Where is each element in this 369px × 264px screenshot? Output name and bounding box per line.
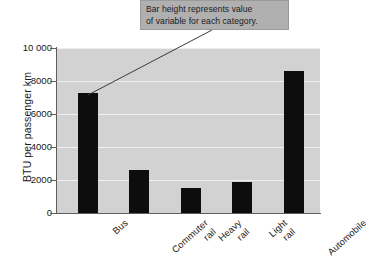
y-tickmark-6000 xyxy=(50,114,56,115)
y-tickmark-10000 xyxy=(50,48,56,49)
y-tickmark-4000 xyxy=(50,147,56,148)
bar-bus xyxy=(78,93,98,213)
x-label-heavy-rail: Heavy rail xyxy=(216,217,252,252)
bar-series xyxy=(57,48,320,213)
x-label-automobile-line1: Automobile xyxy=(325,217,368,257)
callout-text-line1: Bar height represents value xyxy=(146,3,284,15)
bar-heavy-rail xyxy=(181,188,201,213)
x-axis-category-labels: Bus Commuter rail Heavy rail Light rail … xyxy=(57,213,320,264)
y-tick-label-4000: 4000 xyxy=(4,142,52,152)
y-tick-label-6000: 6000 xyxy=(4,109,52,119)
y-axis-line xyxy=(56,47,57,214)
y-tickmark-2000 xyxy=(50,180,56,181)
callout-text-line2: of variable for each category. xyxy=(146,15,284,27)
y-tick-label-10000: 10 000 xyxy=(4,43,52,53)
bar-automobile xyxy=(284,71,304,213)
x-label-bus: Bus xyxy=(110,217,130,237)
y-axis-tick-labels: 10 000 8000 6000 4000 2000 0 xyxy=(0,0,52,264)
plot-area xyxy=(57,48,320,213)
y-tick-label-0: 0 xyxy=(4,208,52,218)
x-label-bus-line1: Bus xyxy=(110,217,130,236)
bar-light-rail xyxy=(232,182,252,213)
x-label-commuter-rail: Commuter rail xyxy=(169,217,218,264)
x-label-automobile: Automobile xyxy=(325,217,368,258)
x-label-light-rail: Light rail xyxy=(266,217,297,248)
bar-height-callout: Bar height represents value of variable … xyxy=(140,0,289,30)
y-tick-label-8000: 8000 xyxy=(4,76,52,86)
y-tickmark-8000 xyxy=(50,81,56,82)
bar-commuter-rail xyxy=(129,170,149,213)
y-tick-label-2000: 2000 xyxy=(4,175,52,185)
